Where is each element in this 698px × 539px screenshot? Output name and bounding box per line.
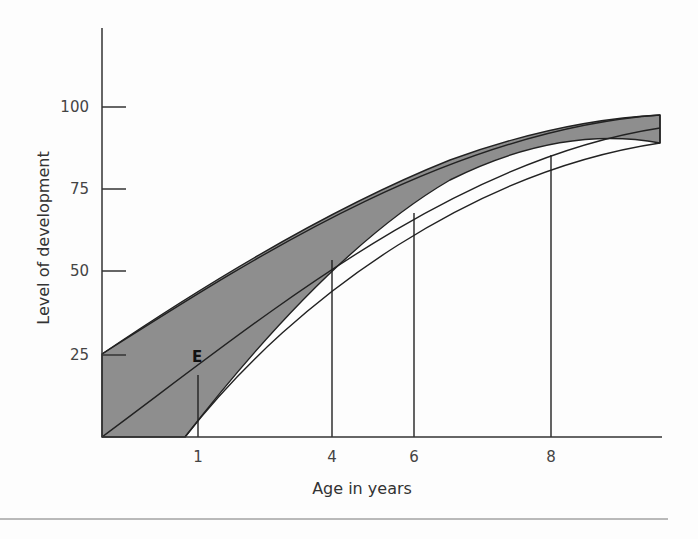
y-tick-75: 75: [70, 180, 89, 198]
development-band: [102, 115, 660, 437]
y-tick-100: 100: [60, 98, 89, 116]
y-axis-label: Level of development: [34, 151, 53, 324]
x-tick-6: 6: [409, 448, 419, 466]
development-chart: 100 75 50 25 1 4 6 8 E Age in years Leve…: [0, 0, 698, 539]
annotation-e: E: [192, 348, 202, 366]
x-axis-label: Age in years: [312, 479, 412, 498]
x-tick-8: 8: [546, 448, 556, 466]
x-tick-1: 1: [193, 448, 203, 466]
x-tick-4: 4: [327, 448, 337, 466]
y-tick-25: 25: [70, 346, 89, 364]
y-tick-50: 50: [70, 262, 89, 280]
